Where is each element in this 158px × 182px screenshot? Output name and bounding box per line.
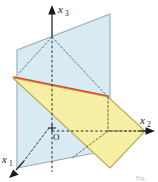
x3-axis-arrowhead [48, 5, 56, 15]
x3-axis-label-group: x 3 [57, 3, 69, 18]
geometry-diagram: x 3 x 2 x 1 O Fig. [0, 0, 158, 182]
origin-label: O [53, 132, 60, 142]
figure-container: x 3 x 2 x 1 O Fig. [0, 0, 158, 182]
x1-axis-label-subscript: 1 [9, 159, 13, 168]
x2-axis-label-subscript: 2 [147, 120, 151, 129]
x1-axis-label-base: x [1, 153, 7, 165]
x1-axis-arrowhead [9, 169, 19, 178]
figure-caption: Fig. [136, 175, 146, 181]
x1-axis-label-group: x 1 [1, 153, 13, 168]
x3-axis-label-base: x [57, 3, 63, 15]
x3-axis-label-subscript: 3 [65, 9, 69, 18]
x2-axis-label-base: x [139, 114, 145, 126]
